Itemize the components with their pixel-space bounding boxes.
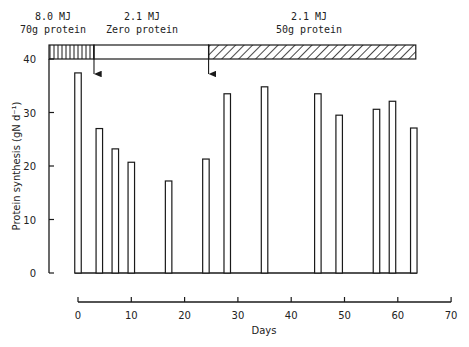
bars (75, 73, 417, 273)
diet-phase-labels: 8.0 MJ70g protein2.1 MJZero protein2.1 M… (20, 11, 342, 35)
diet-phase-energy-label: 8.0 MJ (35, 11, 71, 22)
bar-day-0 (75, 73, 82, 273)
diet-phase-bar (49, 45, 416, 74)
x-tick-label: 20 (178, 310, 191, 321)
bar-day-4 (96, 129, 103, 273)
y-tick-label: 0 (30, 268, 36, 279)
bar-day-45 (315, 94, 322, 273)
diet-phase-segment-1 (49, 45, 94, 59)
y-tick-label: 20 (23, 161, 36, 172)
x-tick-label: 30 (232, 310, 245, 321)
bar-day-28 (224, 94, 231, 273)
x-tick-label: 40 (285, 310, 298, 321)
x-tick-label: 50 (338, 310, 351, 321)
bar-day-10 (128, 162, 135, 273)
y-tick-label: 40 (23, 54, 36, 65)
x-axis-label: Days (252, 325, 277, 336)
diet-phase-energy-label: 2.1 MJ (291, 11, 327, 22)
bar-day-24 (203, 159, 210, 273)
diet-phase-energy-label: 2.1 MJ (124, 11, 160, 22)
bar-day-63 (411, 128, 418, 273)
diet-phase-segment-2 (94, 45, 209, 59)
bar-day-49 (336, 115, 343, 273)
y-axis: 010203040 (23, 54, 54, 279)
x-tick-label: 60 (391, 310, 404, 321)
y-axis-label: Protein synthesis (gN d⁻¹) (11, 101, 22, 230)
diet-phase-segment-3 (209, 45, 416, 59)
bar-day-35 (261, 87, 268, 273)
x-tick-label: 70 (445, 310, 458, 321)
diet-phase-protein-label: 70g protein (20, 24, 86, 35)
bar-day-59 (389, 101, 396, 273)
bar-day-7 (112, 149, 119, 273)
bar-day-56 (373, 109, 380, 273)
x-tick-label: 10 (125, 310, 138, 321)
y-tick-label: 30 (23, 108, 36, 119)
diet-phase-protein-label: 50g protein (276, 24, 342, 35)
bar-day-17 (165, 181, 172, 273)
x-axis: 010203040506070 (75, 297, 458, 321)
protein-synthesis-chart: 8.0 MJ70g protein2.1 MJZero protein2.1 M… (0, 0, 469, 347)
diet-phase-protein-label: Zero protein (106, 24, 178, 35)
x-tick-label: 0 (75, 310, 81, 321)
y-tick-label: 10 (23, 215, 36, 226)
